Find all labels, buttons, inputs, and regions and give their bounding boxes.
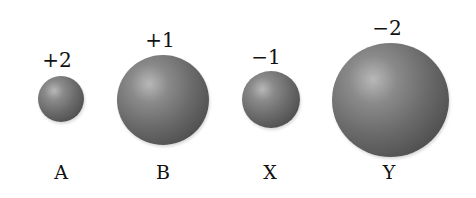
- charge-label-x: −1: [251, 47, 280, 67]
- ion-label-x: X: [263, 162, 277, 182]
- sphere-b: [117, 55, 209, 145]
- sphere-y: [332, 43, 449, 157]
- ion-label-y: Y: [383, 162, 396, 182]
- ion-label-b: B: [156, 162, 170, 182]
- ion-label-a: A: [54, 162, 68, 182]
- charge-label-a: +2: [42, 50, 71, 70]
- sphere-x: [242, 71, 300, 128]
- charge-label-b: +1: [145, 30, 174, 50]
- charge-label-y: −2: [372, 18, 401, 38]
- sphere-a: [38, 76, 84, 122]
